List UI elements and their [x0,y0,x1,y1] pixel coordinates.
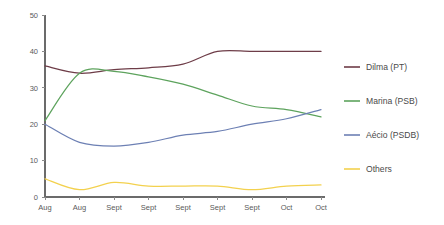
chart-background [0,0,444,225]
x-tick-label: Sept [175,203,191,212]
legend-label: Aécio (PSDB) [366,130,419,140]
y-tick-label: 20 [30,120,38,129]
y-tick-label: 10 [30,156,38,165]
x-tick-label: Oct [281,203,294,212]
y-tick-label: 50 [30,11,38,20]
y-tick-label: 0 [34,193,38,202]
y-tick-label: 30 [30,84,38,93]
y-tick-label: 40 [30,47,38,56]
legend-label: Others [366,164,392,174]
x-tick-label: Sept [141,203,157,212]
line-chart: 01020304050 AugAugSeptSeptSeptSeptSeptOc… [0,0,444,225]
x-tick-label: Oct [315,203,328,212]
chart-container: 01020304050 AugAugSeptSeptSeptSeptSeptOc… [0,0,444,225]
x-tick-label: Sept [106,203,122,212]
x-tick-label: Aug [38,203,51,212]
x-tick-label: Aug [73,203,86,212]
legend-label: Marina (PSB) [366,96,418,106]
x-tick-label: Sept [210,203,226,212]
legend-label: Dilma (PT) [366,62,407,72]
x-tick-label: Sept [244,203,260,212]
